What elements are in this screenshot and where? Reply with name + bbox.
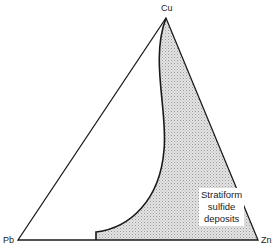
region-label-line-3: deposits [201, 213, 242, 225]
region-label-line-2: sulfide [201, 201, 242, 213]
region-label: Stratiform sulfide deposits [199, 188, 244, 226]
vertex-label-pb: Pb [3, 236, 14, 245]
region-label-line-1: Stratiform [201, 189, 242, 201]
vertex-label-cu: Cu [161, 4, 173, 13]
vertex-label-zn: Zn [261, 236, 272, 245]
